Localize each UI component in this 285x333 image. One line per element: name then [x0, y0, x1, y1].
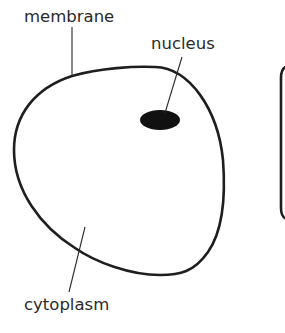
cell-membrane-outline — [14, 67, 224, 275]
nucleus-leader-line — [165, 57, 182, 113]
cell-diagram: membrane nucleus cytoplasm — [0, 0, 285, 333]
cytoplasm-label: cytoplasm — [24, 295, 109, 314]
nucleus-label: nucleus — [151, 34, 215, 53]
membrane-label: membrane — [24, 7, 114, 26]
nucleus-shape — [140, 110, 180, 130]
cytoplasm-leader-line — [69, 227, 85, 292]
adjacent-cell-outline — [281, 66, 285, 220]
